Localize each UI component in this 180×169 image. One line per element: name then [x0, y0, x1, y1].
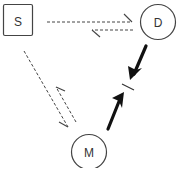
- edge-m-to-s: [56, 87, 76, 122]
- bold-line: [108, 99, 120, 129]
- node-d: D: [141, 5, 176, 40]
- diagram-canvas: S D M: [0, 0, 180, 168]
- edge-d-to-s: [92, 30, 133, 37]
- edge-d-to-block: [128, 46, 146, 80]
- block-bar: [122, 84, 134, 90]
- node-d-label: D: [154, 16, 163, 30]
- node-s-label: S: [14, 15, 22, 29]
- node-m: M: [72, 135, 107, 169]
- half-arrowhead-icon: [92, 30, 100, 37]
- node-m-label: M: [84, 146, 94, 160]
- dashed-line: [56, 87, 76, 122]
- half-arrowhead-icon: [59, 122, 68, 127]
- edge-m-to-block: [108, 92, 124, 129]
- half-arrowhead-icon: [124, 14, 132, 22]
- edge-s-to-d: [47, 14, 132, 22]
- node-s: S: [4, 5, 33, 36]
